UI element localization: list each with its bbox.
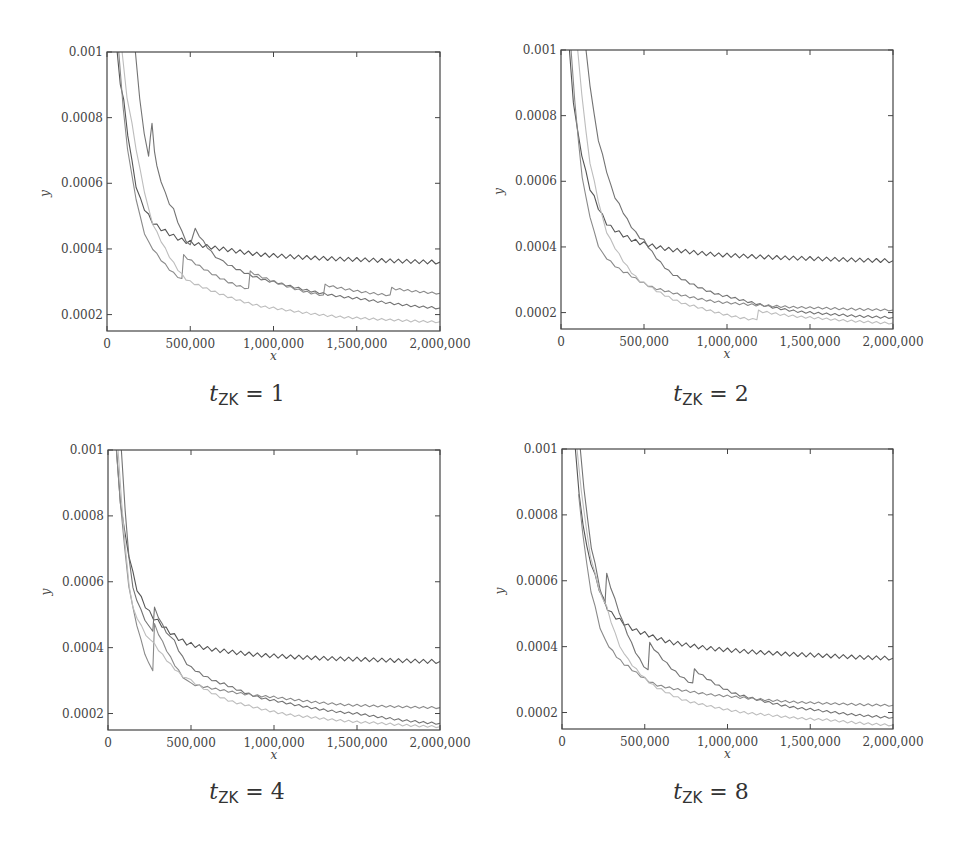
caption-tzk-4: tZK = 4 (209, 779, 284, 807)
plot-frame (107, 52, 440, 331)
series-group (117, 50, 440, 323)
series-group (575, 447, 893, 726)
data-line-series-4 (118, 449, 440, 728)
x-axis-label: x (724, 747, 731, 761)
y-tick-label: 0.001 (524, 442, 558, 456)
y-tick-label: 0.0008 (61, 111, 103, 125)
y-tick-label: 0.001 (70, 443, 104, 457)
y-axis-label: y (39, 588, 53, 596)
y-tick-label: 0.0008 (62, 509, 104, 523)
plot-frame (108, 450, 440, 730)
caption-tzk-2: tZK = 2 (673, 381, 748, 409)
plot-frame (561, 50, 893, 329)
subplot-tzk-2: 0.00020.00040.00060.00080.0010500,0001,0… (561, 50, 893, 329)
y-tick-label: 0.0002 (516, 706, 558, 720)
x-axis-label: x (271, 748, 278, 762)
data-line-series-2 (580, 448, 893, 718)
x-tick-label: 2,000,000 (862, 735, 923, 749)
caption-tzk-8: tZK = 8 (673, 779, 748, 807)
series-group (569, 48, 893, 324)
y-tick-label: 0.001 (69, 45, 103, 59)
x-tick-label: 0 (558, 735, 566, 749)
data-line-series-3 (579, 494, 893, 706)
x-tick-label: 0 (103, 337, 111, 351)
x-tick-label: 1,500,000 (326, 337, 387, 351)
subplot-tzk-4: 0.00020.00040.00060.00080.0010500,0001,0… (108, 450, 440, 730)
y-axis-label: y (38, 190, 52, 198)
subplot-tzk-1: 0.00020.00040.00060.00080.0010500,0001,0… (107, 52, 440, 331)
x-tick-label: 0 (104, 736, 112, 750)
data-line-series-1 (116, 448, 440, 663)
x-tick-label: 2,000,000 (862, 335, 923, 349)
x-axis-label: x (270, 349, 277, 363)
data-line-series-3 (571, 49, 893, 311)
x-tick-label: 1,500,000 (780, 735, 841, 749)
y-tick-label: 0.0004 (61, 242, 103, 256)
caption-tzk-1: tZK = 1 (209, 381, 284, 409)
x-tick-label: 1,500,000 (326, 736, 387, 750)
series-group (116, 448, 440, 728)
data-line-series-1 (117, 50, 440, 264)
data-line-series-4 (122, 51, 440, 323)
y-tick-label: 0.0008 (515, 109, 557, 123)
y-tick-label: 0.0004 (515, 240, 557, 254)
x-tick-label: 2,000,000 (409, 736, 470, 750)
y-tick-label: 0.0006 (516, 574, 558, 588)
y-tick-label: 0.0002 (62, 707, 104, 721)
subplot-tzk-8: 0.00020.00040.00060.00080.0010500,0001,0… (562, 449, 893, 729)
y-tick-label: 0.0004 (516, 640, 558, 654)
x-tick-label: 500,000 (165, 337, 215, 351)
data-line-series-2 (135, 51, 440, 309)
y-tick-label: 0.0004 (62, 641, 104, 655)
data-line-series-2 (586, 49, 893, 318)
x-tick-label: 2,000,000 (409, 337, 470, 351)
data-line-series-4 (577, 448, 893, 726)
y-tick-label: 0.0002 (61, 308, 103, 322)
x-tick-label: 0 (557, 335, 565, 349)
x-tick-label: 1,500,000 (779, 335, 840, 349)
y-tick-label: 0.0006 (62, 575, 104, 589)
x-tick-label: 500,000 (619, 335, 669, 349)
data-line-series-2 (121, 449, 440, 724)
x-tick-label: 500,000 (166, 736, 216, 750)
y-axis-label: y (492, 188, 506, 196)
data-line-series-3 (119, 51, 440, 296)
data-line-series-1 (569, 48, 893, 263)
y-tick-label: 0.0002 (515, 306, 557, 320)
y-tick-label: 0.001 (523, 43, 557, 57)
x-tick-label: 500,000 (620, 735, 670, 749)
y-tick-label: 0.0008 (516, 508, 558, 522)
y-tick-label: 0.0006 (61, 176, 103, 190)
data-line-series-3 (116, 449, 440, 709)
data-line-series-1 (575, 447, 893, 660)
y-axis-label: y (493, 587, 507, 595)
y-tick-label: 0.0006 (515, 174, 557, 188)
x-axis-label: x (724, 347, 731, 361)
data-line-series-4 (578, 49, 893, 324)
